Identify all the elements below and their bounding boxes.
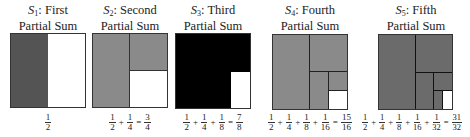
numerator: 1 xyxy=(433,113,439,123)
square xyxy=(92,33,168,108)
denominator: 4 xyxy=(380,123,384,132)
denominator: 4 xyxy=(128,123,133,132)
shaded-quarter xyxy=(310,35,347,72)
numerator: 3 xyxy=(144,113,151,123)
plus-sign: + xyxy=(313,117,318,127)
plus-sign: + xyxy=(193,117,198,127)
equation: 12 + 14 + 18 + 116 + 132 = 3132 xyxy=(354,111,470,133)
equals-sign: = xyxy=(333,117,338,127)
square xyxy=(272,34,348,110)
partial-sums-diagram: S1: First Partial Sum 12 S2: Second Part… xyxy=(0,0,470,137)
numerator: 7 xyxy=(236,113,243,123)
equals-sign: = xyxy=(136,117,141,127)
numerator: 1 xyxy=(183,113,190,123)
shaded-half xyxy=(93,34,130,107)
title-line2: Partial Sum xyxy=(19,19,78,33)
numerator: 1 xyxy=(379,113,385,123)
shaded-eighth xyxy=(310,72,329,109)
denominator: 2 xyxy=(110,123,115,132)
plus-sign: + xyxy=(425,117,430,127)
denominator: 2 xyxy=(184,123,189,132)
shaded-half xyxy=(273,35,310,109)
shaded-bottom xyxy=(176,72,231,108)
title-line2: Partial Sum xyxy=(281,19,340,33)
numerator: 1 xyxy=(201,113,208,123)
denominator: 4 xyxy=(202,123,207,132)
title-line2: Partial Sum xyxy=(184,19,243,33)
denominator: 8 xyxy=(220,123,225,132)
title-name: : Fourth xyxy=(295,3,335,17)
numerator: 1 xyxy=(219,113,226,123)
equation: 12 xyxy=(10,111,86,133)
square xyxy=(175,33,251,109)
numerator: 1 xyxy=(414,113,420,123)
fraction: 12 xyxy=(45,113,52,132)
denominator: 4 xyxy=(145,123,150,132)
plus-sign: + xyxy=(405,117,410,127)
panel-title: S1: First Partial Sum xyxy=(10,4,86,33)
numerator: 1 xyxy=(286,113,293,123)
plus-sign: + xyxy=(210,117,215,127)
title-line2: Partial Sum xyxy=(101,19,160,33)
plus-sign: + xyxy=(119,117,124,127)
title-name: : First xyxy=(38,3,68,17)
equation: 12 + 14 + 18 + 116 = 1516 xyxy=(258,111,362,133)
numerator: 1 xyxy=(303,113,310,123)
denominator: 16 xyxy=(413,123,422,132)
denominator: 2 xyxy=(363,123,367,132)
numerator: 31 xyxy=(452,113,463,123)
shaded-top xyxy=(176,34,250,72)
panel-title: S3: Third Partial Sum xyxy=(175,4,251,33)
shaded-eighth xyxy=(416,73,434,109)
panel-title: S5: Fifth Partial Sum xyxy=(378,4,454,33)
denominator: 2 xyxy=(46,123,51,132)
plus-sign: + xyxy=(278,117,283,127)
shaded-quarter xyxy=(130,34,167,71)
numerator: 1 xyxy=(362,113,368,123)
denominator: 16 xyxy=(321,123,330,132)
plus-sign: + xyxy=(371,117,376,127)
denominator: 32 xyxy=(432,123,441,132)
shaded-sixteenth xyxy=(329,72,347,91)
denominator: 4 xyxy=(287,123,292,132)
plus-sign: + xyxy=(295,117,300,127)
denominator: 16 xyxy=(342,123,351,132)
title-line2: Partial Sum xyxy=(387,19,446,33)
numerator: 1 xyxy=(109,113,116,123)
numerator: 1 xyxy=(396,113,402,123)
shaded-half xyxy=(11,34,48,107)
equation: 12 + 14 + 18 = 78 xyxy=(166,111,260,133)
equals-sign: = xyxy=(444,117,449,127)
equation: 12 + 14 = 34 xyxy=(86,111,174,133)
shaded-thirtysecond xyxy=(434,91,443,109)
square xyxy=(10,33,86,108)
shaded-half xyxy=(379,35,416,109)
panel-title: S4: Fourth Partial Sum xyxy=(272,4,348,33)
numerator: 1 xyxy=(268,113,275,123)
square xyxy=(378,34,453,110)
denominator: 8 xyxy=(397,123,401,132)
denominator: 32 xyxy=(453,123,462,132)
numerator: 1 xyxy=(45,113,52,123)
plus-sign: + xyxy=(388,117,393,127)
denominator: 8 xyxy=(304,123,309,132)
shaded-sixteenth xyxy=(434,73,452,91)
equals-sign: = xyxy=(228,117,233,127)
numerator: 1 xyxy=(322,113,329,123)
denominator: 2 xyxy=(269,123,274,132)
title-name: : Second xyxy=(113,3,156,17)
title-name: : Fifth xyxy=(406,3,437,17)
numerator: 1 xyxy=(127,113,134,123)
denominator: 8 xyxy=(237,123,242,132)
title-name: : Third xyxy=(201,3,235,17)
panel-title: S2: Second Partial Sum xyxy=(92,4,168,33)
numerator: 15 xyxy=(341,113,352,123)
shaded-quarter xyxy=(416,35,452,73)
